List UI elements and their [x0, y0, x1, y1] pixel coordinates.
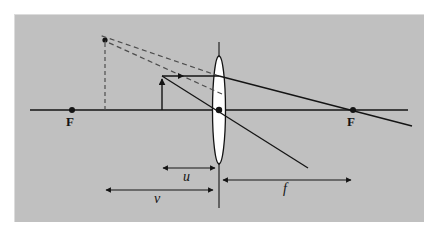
diagram-panel	[14, 14, 424, 222]
focal-point-left-label: F	[66, 115, 74, 128]
focal-point-right-label: F	[347, 115, 355, 128]
image-distance-label: v	[154, 192, 160, 206]
focal-length-label: f	[283, 182, 287, 196]
figure-root: F F u v f	[0, 0, 438, 233]
object-distance-label: u	[183, 170, 190, 184]
